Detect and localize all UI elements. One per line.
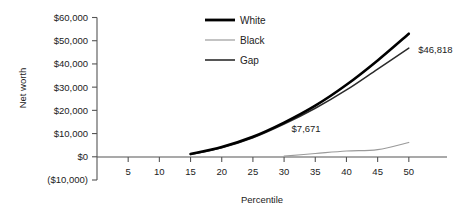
y-tick-label: $40,000 [54,58,88,69]
x-axis-title: Percentile [241,194,283,205]
data-label: $46,818 [418,44,452,55]
x-tick-label: 50 [404,166,415,177]
y-tick-label: $0 [77,151,88,162]
y-tick-label: $10,000 [54,128,88,139]
x-tick-label: 20 [216,166,227,177]
y-tick-label: $60,000 [54,12,88,23]
chart-container: $60,000$50,000$40,000$30,000$20,000$10,0… [0,0,454,209]
x-tick-label: 30 [279,166,290,177]
x-tick-label: 15 [185,166,196,177]
y-tick-label: $20,000 [54,105,88,116]
x-tick-label: 25 [248,166,259,177]
y-tick-label: $30,000 [54,82,88,93]
legend-label-gap: Gap [240,55,259,66]
y-axis-title: Net worth [17,68,28,109]
net-worth-line-chart: $60,000$50,000$40,000$30,000$20,000$10,0… [0,0,454,209]
x-tick-label: 5 [126,166,131,177]
data-label: $7,671 [292,123,321,134]
legend-label-black: Black [240,35,265,46]
x-tick-label: 45 [372,166,383,177]
y-tick-label: ($10,000) [47,174,88,185]
x-tick-label: 40 [341,166,352,177]
x-tick-label: 35 [310,166,321,177]
legend-label-white: White [240,15,266,26]
x-tick-label: 10 [154,166,165,177]
y-tick-label: $50,000 [54,35,88,46]
